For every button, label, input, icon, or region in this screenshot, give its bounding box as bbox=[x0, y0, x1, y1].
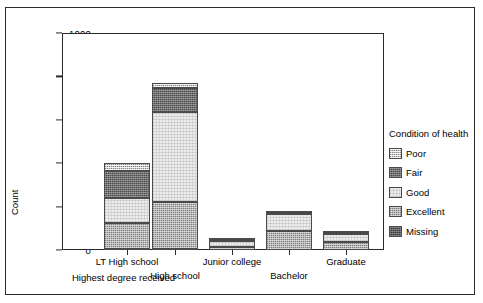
legend-title: Condition of health bbox=[389, 128, 481, 139]
good-swatch-icon bbox=[389, 187, 402, 198]
bar-segment-poor bbox=[266, 211, 312, 213]
legend-label: Good bbox=[406, 187, 429, 198]
legend-item-good[interactable]: Good bbox=[389, 185, 481, 199]
legend-item-excellent[interactable]: Excellent bbox=[389, 205, 481, 219]
bar-segment-excellent bbox=[266, 231, 312, 250]
bar-high-school[interactable] bbox=[152, 83, 198, 250]
legend: Condition of health Poor Fair Good Excel… bbox=[389, 128, 481, 244]
x-tick-label-lt-high-school: LT High school bbox=[96, 256, 159, 267]
x-tick-mark bbox=[232, 250, 233, 255]
fair-swatch-icon bbox=[389, 167, 402, 178]
bar-segment-good bbox=[323, 234, 369, 242]
missing-swatch-icon bbox=[389, 226, 402, 237]
legend-label: Excellent bbox=[406, 206, 445, 217]
bar-segment-poor bbox=[323, 231, 369, 233]
bar-segment-poor bbox=[209, 238, 255, 240]
bar-segment-good bbox=[209, 241, 255, 247]
x-tick-mark bbox=[127, 250, 128, 255]
bar-segment-poor bbox=[152, 83, 198, 88]
bar-segment-fair bbox=[104, 171, 150, 198]
bar-segment-good bbox=[104, 198, 150, 223]
poor-swatch-icon bbox=[389, 148, 402, 159]
bar-segment-good bbox=[266, 214, 312, 231]
x-tick-mark bbox=[175, 250, 176, 255]
bar-segment-good bbox=[152, 112, 198, 202]
bar-segment-excellent bbox=[323, 242, 369, 250]
x-axis-title: Highest degree received bbox=[72, 272, 175, 283]
legend-item-poor[interactable]: Poor bbox=[389, 146, 481, 160]
bar-segment-fair bbox=[266, 212, 312, 214]
x-tick-label-junior-college: Junior college bbox=[203, 256, 262, 267]
bar-lt-high-school[interactable] bbox=[104, 163, 150, 250]
bar-graduate[interactable] bbox=[323, 233, 369, 250]
x-tick-mark bbox=[289, 250, 290, 255]
legend-label: Poor bbox=[406, 148, 426, 159]
legend-item-missing[interactable]: Missing bbox=[389, 224, 481, 238]
legend-item-fair[interactable]: Fair bbox=[389, 166, 481, 180]
chart-frame: 1000 800 600 400 200 0 Count bbox=[5, 7, 475, 295]
excellent-swatch-icon bbox=[389, 206, 402, 217]
bar-segment-excellent bbox=[104, 223, 150, 250]
bar-junior-college[interactable] bbox=[209, 239, 255, 250]
x-tick-mark bbox=[346, 250, 347, 255]
legend-label: Missing bbox=[406, 226, 438, 237]
bar-bachelor[interactable] bbox=[266, 212, 312, 250]
legend-label: Fair bbox=[406, 167, 422, 178]
bar-segment-fair bbox=[152, 88, 198, 113]
x-tick-label-graduate: Graduate bbox=[326, 256, 366, 267]
bar-segment-poor bbox=[104, 163, 150, 170]
x-tick-label-bachelor: Bachelor bbox=[270, 270, 308, 281]
bar-segment-excellent bbox=[152, 202, 198, 249]
